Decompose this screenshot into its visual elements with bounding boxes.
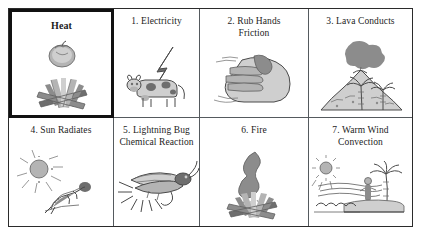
page: Heat [0, 0, 424, 243]
erupting-volcano-icon [309, 39, 412, 115]
firefly-icon [114, 148, 199, 224]
cell-label: Heat [12, 20, 111, 32]
tomato-and-campfire-icon [12, 38, 111, 113]
heat-sources-grid: Heat [8, 8, 413, 227]
grid-cell-lightning-bug[interactable]: 5. Lightning BugChemical Reaction [114, 118, 200, 226]
cell-label: 1. Electricity [114, 15, 199, 27]
grid-cell-heat[interactable]: Heat [9, 9, 114, 118]
rubbing-hands-icon [200, 39, 308, 115]
grid-cell-electricity[interactable]: 1. Electricity [114, 9, 200, 118]
cell-label: 6. Fire [200, 124, 308, 136]
beach-wind-convection-icon [309, 148, 412, 224]
cell-label: 4. Sun Radiates [9, 124, 113, 136]
cell-label: 3. Lava Conducts [309, 15, 412, 27]
grid-cell-friction[interactable]: 2. Rub HandsFriction [200, 9, 309, 118]
grid-cell-lava[interactable]: 3. Lava Conducts [309, 9, 412, 118]
grid-cell-fire[interactable]: 6. Fire [200, 118, 309, 226]
cell-label: 2. Rub HandsFriction [200, 15, 308, 39]
cow-and-lightning-bolt-icon [114, 39, 199, 115]
grid-cell-convection[interactable]: 7. Warm WindConvection [309, 118, 412, 226]
cell-label: 5. Lightning BugChemical Reaction [114, 124, 199, 148]
flame-and-logs-icon [200, 148, 308, 224]
grid-cell-sun-radiates[interactable]: 4. Sun Radiates [9, 118, 114, 226]
cell-label: 7. Warm WindConvection [309, 124, 412, 148]
sun-and-sunbather-icon [9, 148, 113, 224]
